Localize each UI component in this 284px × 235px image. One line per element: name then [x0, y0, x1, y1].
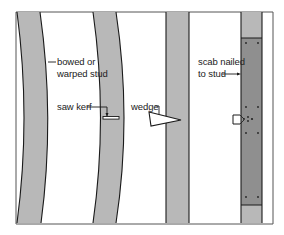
label-scab-line2: to stud [198, 68, 226, 79]
diagram-canvas [0, 0, 284, 235]
bowed-stud-1 [17, 12, 48, 223]
label-scab-line1: scab nailed [198, 56, 245, 67]
stud-straightening-diagram: bowed or warped stud saw kerf wedge scab… [0, 0, 284, 235]
small-wedge-icon [233, 115, 240, 124]
label-wedge: wedge [131, 101, 159, 112]
saw-kerf-slot [103, 117, 119, 120]
label-saw-kerf: saw kerf [57, 101, 92, 112]
label-bowed-line1: bowed or [57, 56, 95, 67]
label-bowed-line2: warped stud [57, 68, 108, 79]
